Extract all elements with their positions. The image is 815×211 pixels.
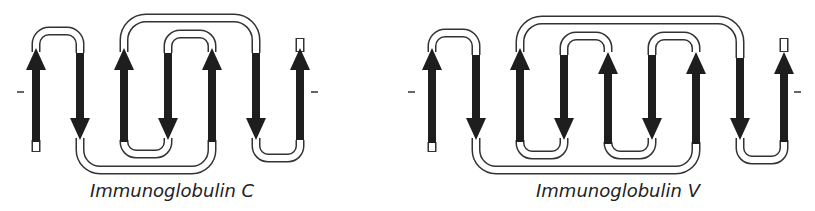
- ig-v-caption: Immunoglobulin V: [536, 180, 700, 201]
- strand-arrow-down-icon: [158, 53, 178, 140]
- strand-arrow-up-icon: [510, 48, 530, 142]
- strand-arrow-down-icon: [246, 53, 266, 140]
- strand-arrow-up-icon: [26, 48, 46, 142]
- strand-arrow-up-icon: [290, 48, 310, 140]
- strand-arrow-up-icon: [598, 52, 618, 144]
- strand-arrow-down-icon: [642, 55, 662, 140]
- ig-v-strands: [422, 48, 794, 144]
- strand-arrow-down-icon: [554, 55, 574, 140]
- strand-arrow-up-icon: [686, 52, 706, 144]
- ig-c-strands: [26, 48, 310, 142]
- ig-v-diagram: [408, 20, 801, 170]
- strand-arrow-up-icon: [774, 52, 794, 142]
- ig-c-caption: Immunoglobulin C: [90, 180, 254, 201]
- strand-arrow-down-icon: [70, 53, 90, 140]
- strand-arrow-down-icon: [730, 58, 750, 140]
- strand-arrow-down-icon: [466, 55, 486, 140]
- strand-arrow-up-icon: [202, 48, 222, 142]
- ig-c-diagram: [17, 18, 318, 170]
- strand-arrow-up-icon: [114, 48, 134, 142]
- strand-arrow-up-icon: [422, 48, 442, 143]
